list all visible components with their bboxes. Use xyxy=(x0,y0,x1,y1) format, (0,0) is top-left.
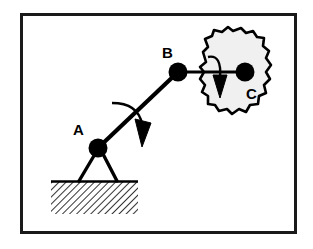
label-a: A xyxy=(73,121,84,138)
joint-b-node xyxy=(169,63,188,82)
ground-support xyxy=(51,181,138,214)
ground-hatch-region xyxy=(51,181,138,214)
mechanism-figure: A B C xyxy=(0,0,313,249)
joint-a-node xyxy=(89,139,108,158)
diagram-canvas: A B C xyxy=(0,0,313,249)
label-b: B xyxy=(162,44,173,61)
point-c-node xyxy=(236,63,255,82)
label-c: C xyxy=(246,85,257,102)
